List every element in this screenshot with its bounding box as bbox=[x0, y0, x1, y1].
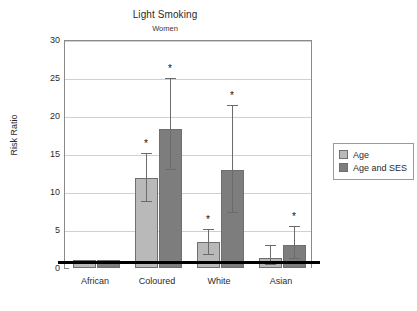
error-bar bbox=[294, 226, 295, 258]
y-axis-title: Risk Ratio bbox=[9, 90, 19, 180]
y-axis-tick-label: 15 bbox=[34, 149, 60, 159]
x-axis-tick-labels: AfricanColouredWhiteAsian bbox=[64, 276, 312, 292]
error-bar-cap bbox=[265, 264, 276, 265]
significance-marker: * bbox=[144, 140, 148, 148]
y-axis-tick-label: 0 bbox=[34, 263, 60, 273]
significance-marker: * bbox=[168, 65, 172, 73]
x-axis-tick-label: Coloured bbox=[139, 276, 176, 286]
chart-figure: Light Smoking Women Risk Ratio 051015202… bbox=[0, 0, 417, 311]
y-axis-tick-labels: 051015202530 bbox=[30, 40, 60, 268]
x-axis-tick-label: Asian bbox=[270, 276, 293, 286]
legend-swatch-icon bbox=[339, 163, 348, 172]
y-axis-tick-label: 25 bbox=[34, 73, 60, 83]
error-bar-cap bbox=[141, 153, 152, 154]
y-axis-tick-label: 20 bbox=[34, 111, 60, 121]
gridline bbox=[65, 41, 311, 42]
gridline bbox=[65, 117, 311, 118]
error-bar-cap bbox=[227, 212, 238, 213]
reference-line bbox=[58, 261, 320, 264]
legend-item-age-and-ses: Age and SES bbox=[339, 161, 407, 174]
y-axis-tick-mark bbox=[64, 268, 69, 269]
legend-item-age: Age bbox=[339, 148, 407, 161]
chart-subtitle: Women bbox=[0, 24, 330, 33]
y-axis-tick-label: 5 bbox=[34, 225, 60, 235]
x-axis-tick-label: White bbox=[207, 276, 230, 286]
gridline bbox=[65, 193, 311, 194]
plot-area: ***** bbox=[64, 40, 312, 268]
legend-label: Age bbox=[353, 150, 369, 160]
error-bar-cap bbox=[289, 258, 300, 259]
chart-legend: Age Age and SES bbox=[333, 143, 414, 180]
error-bar bbox=[170, 78, 171, 168]
gridline bbox=[65, 155, 311, 156]
error-bar-cap bbox=[165, 169, 176, 170]
legend-label: Age and SES bbox=[353, 163, 407, 173]
error-bar bbox=[232, 105, 233, 212]
error-bar bbox=[208, 229, 209, 254]
error-bar-cap bbox=[141, 201, 152, 202]
error-bar-cap bbox=[203, 229, 214, 230]
error-bar-cap bbox=[265, 245, 276, 246]
gridline bbox=[65, 231, 311, 232]
gridline bbox=[65, 79, 311, 80]
legend-swatch-icon bbox=[339, 150, 348, 159]
significance-marker: * bbox=[206, 216, 210, 224]
chart-title: Light Smoking bbox=[0, 9, 330, 20]
significance-marker: * bbox=[292, 213, 296, 221]
error-bar-cap bbox=[203, 254, 214, 255]
y-axis-tick-label: 30 bbox=[34, 35, 60, 45]
error-bar-cap bbox=[165, 78, 176, 79]
error-bar-cap bbox=[227, 105, 238, 106]
error-bar-cap bbox=[289, 226, 300, 227]
significance-marker: * bbox=[230, 92, 234, 100]
y-axis-tick-label: 10 bbox=[34, 187, 60, 197]
error-bar bbox=[146, 153, 147, 201]
x-axis-tick-label: African bbox=[81, 276, 109, 286]
